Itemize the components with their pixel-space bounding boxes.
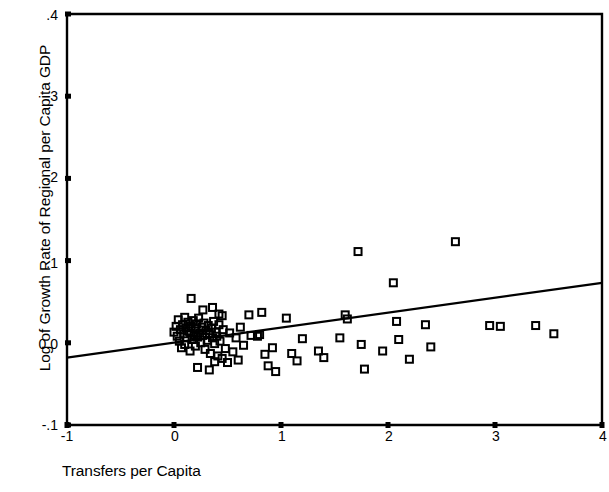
data-point-marker [355, 248, 362, 255]
x-tick-mark [65, 422, 70, 428]
data-point-marker [550, 330, 557, 337]
data-point-marker [497, 323, 504, 330]
data-point-marker [395, 336, 402, 343]
data-point-marker [390, 279, 397, 286]
data-point-marker [194, 364, 201, 371]
data-point-marker [393, 318, 400, 325]
data-point-marker [245, 311, 252, 318]
data-point-marker [336, 334, 343, 341]
data-point-marker [258, 309, 265, 316]
y-tick-mark [65, 258, 71, 263]
data-point-marker [379, 348, 386, 355]
scatter-plot-figure: Log of Growth Rate of Regional per Capit… [0, 0, 609, 492]
data-point-marker [299, 335, 306, 342]
data-point-marker [283, 315, 290, 322]
data-point-marker [237, 324, 244, 331]
x-tick-mark [600, 422, 605, 428]
data-point-marker [240, 342, 247, 349]
x-tick-mark [493, 422, 498, 428]
data-point-marker [272, 368, 279, 375]
data-point-marker [199, 306, 206, 313]
data-point-marker [406, 356, 413, 363]
regression-line [67, 283, 602, 358]
x-tick-mark [279, 422, 284, 428]
data-point-marker [358, 341, 365, 348]
data-point-marker [188, 295, 195, 302]
data-point-marker [206, 366, 213, 373]
tick-marks [65, 12, 605, 429]
data-point-marker [486, 322, 493, 329]
y-tick-mark [65, 340, 71, 345]
data-point-marker [288, 350, 295, 357]
data-point-marker [235, 357, 242, 364]
data-point-marker [222, 345, 229, 352]
data-point-marker [427, 343, 434, 350]
data-point-marker [294, 357, 301, 364]
data-point-marker [452, 238, 459, 245]
data-point-marker [265, 362, 272, 369]
y-tick-mark [65, 94, 71, 99]
data-point-marker [532, 322, 539, 329]
data-point-marker [422, 321, 429, 328]
x-tick-mark [172, 422, 177, 428]
data-point-group [171, 238, 558, 375]
y-tick-mark [65, 176, 71, 181]
data-point-marker [261, 351, 268, 358]
plot-area [0, 0, 609, 492]
data-point-marker [269, 344, 276, 351]
data-point-marker [229, 348, 236, 355]
x-tick-mark [386, 422, 391, 428]
axis-frame [67, 14, 602, 425]
data-point-marker [361, 366, 368, 373]
y-tick-mark [65, 12, 71, 17]
